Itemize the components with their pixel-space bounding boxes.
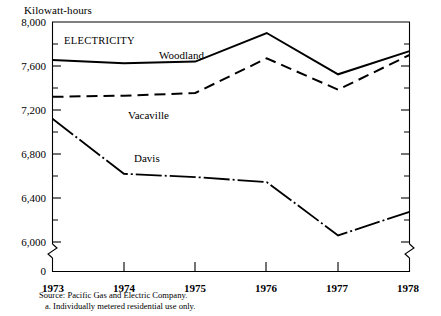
series-line-woodland <box>53 33 410 74</box>
x-axis-ticks <box>124 262 338 272</box>
figure-electricity-usage: Kilowatt-hours 8,000 7,600 7,200 6,800 6… <box>0 0 441 316</box>
series-line-vacaville <box>53 55 410 97</box>
series-lines <box>53 33 410 235</box>
chart-plot-area <box>0 0 441 316</box>
plot-frame <box>48 22 414 272</box>
y-axis-ticks <box>52 44 410 242</box>
series-line-davis <box>53 119 410 236</box>
